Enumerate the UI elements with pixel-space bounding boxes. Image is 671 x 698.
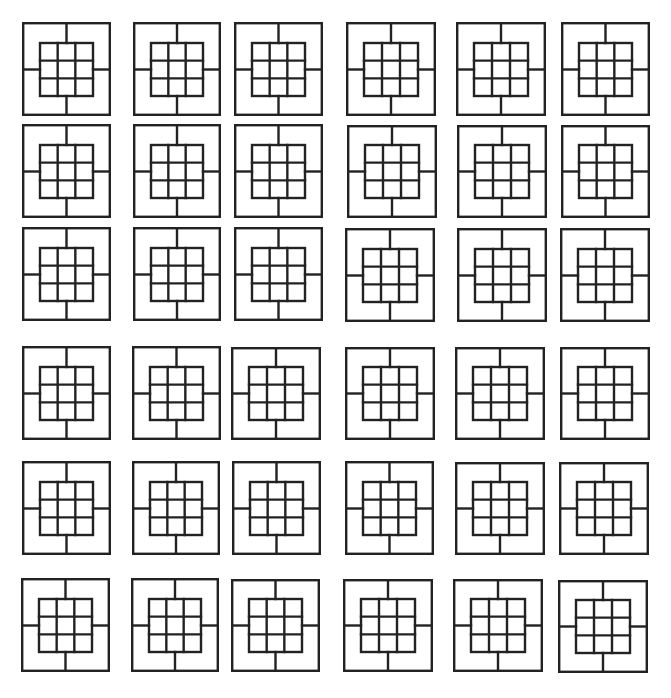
grid-tile-r2-c2 — [133, 124, 221, 218]
framed-grid-icon — [453, 579, 543, 672]
inner-grid — [40, 145, 93, 198]
framed-grid-icon — [131, 578, 219, 672]
framed-grid-icon — [560, 228, 650, 322]
framed-grid-icon — [231, 347, 321, 440]
framed-grid-icon — [560, 347, 650, 440]
inner-grid — [252, 43, 305, 96]
framed-grid-icon — [234, 22, 323, 116]
grid-tile-r4-c3 — [231, 347, 321, 440]
inner-grid — [363, 367, 417, 420]
framed-grid-icon — [559, 462, 649, 555]
grid-tile-r3-c4 — [345, 228, 435, 322]
grid-tile-r4-c4 — [345, 347, 435, 440]
grid-tile-r3-c2 — [133, 227, 221, 321]
inner-grid — [252, 145, 305, 198]
inner-grid — [40, 367, 93, 420]
inner-grid — [364, 43, 418, 96]
inner-grid — [579, 145, 632, 198]
framed-grid-icon — [21, 578, 110, 672]
framed-grid-icon — [455, 347, 545, 440]
grid-tile-r3-c3 — [234, 227, 323, 321]
grid-tile-r1-c3 — [234, 22, 323, 116]
inner-grid — [578, 249, 632, 302]
inner-grid — [576, 600, 630, 653]
inner-grid — [150, 367, 203, 420]
inner-grid — [475, 145, 529, 198]
inner-grid — [250, 482, 303, 535]
grid-tile-r6-c2 — [131, 578, 219, 672]
framed-grid-icon — [22, 22, 111, 116]
grid-tile-r1-c4 — [346, 22, 436, 116]
grid-tile-r6-c3 — [231, 579, 320, 672]
framed-grid-icon — [231, 579, 320, 672]
framed-grid-icon — [22, 461, 111, 555]
grid-tile-r3-c1 — [22, 227, 111, 321]
grid-tile-r6-c1 — [21, 578, 110, 672]
grid-tile-r5-c5 — [455, 462, 545, 555]
inner-grid — [363, 249, 417, 302]
inner-grid — [473, 367, 527, 420]
grid-tile-r1-c5 — [456, 22, 546, 116]
inner-grid — [151, 43, 203, 96]
grid-tile-r5-c4 — [345, 461, 434, 555]
framed-grid-icon — [132, 461, 220, 555]
inner-grid — [363, 482, 416, 535]
grid-tile-r4-c2 — [132, 346, 221, 440]
grid-tile-r6-c4 — [343, 579, 433, 672]
grid-tile-r2-c3 — [234, 124, 323, 218]
framed-grid-icon — [558, 580, 648, 673]
grid-tile-r4-c6 — [560, 347, 650, 440]
grid-tile-r3-c5 — [457, 228, 547, 322]
grid-tile-r5-c1 — [22, 461, 111, 555]
grid-tile-r2-c6 — [561, 125, 650, 218]
grid-tile-r2-c1 — [22, 124, 111, 218]
grid-tile-r1-c6 — [561, 22, 650, 116]
framed-grid-icon — [234, 227, 323, 321]
inner-grid — [473, 482, 527, 535]
inner-grid — [471, 599, 525, 652]
grid-tile-r6-c5 — [453, 579, 543, 672]
inner-grid — [40, 248, 93, 301]
grid-tile-r1-c2 — [133, 22, 221, 116]
framed-grid-icon — [345, 461, 434, 555]
grid-tile-r3-c6 — [560, 228, 650, 322]
inner-grid — [578, 367, 632, 420]
framed-grid-icon — [132, 346, 221, 440]
grid-tile-r4-c5 — [455, 347, 545, 440]
framed-grid-icon — [345, 228, 435, 322]
grid-tile-r5-c2 — [132, 461, 220, 555]
framed-grid-icon — [455, 462, 545, 555]
grid-tile-r1-c1 — [22, 22, 111, 116]
framed-grid-icon — [345, 347, 435, 440]
framed-grid-icon — [22, 124, 111, 218]
grid-tile-r4-c1 — [22, 346, 111, 440]
framed-grid-icon — [133, 124, 221, 218]
framed-grid-icon — [232, 461, 321, 555]
framed-grid-icon — [22, 346, 111, 440]
framed-grid-icon — [457, 228, 547, 322]
inner-grid — [252, 248, 305, 301]
framed-grid-icon — [457, 125, 547, 218]
framed-grid-icon — [346, 22, 436, 116]
inner-grid — [249, 367, 303, 420]
framed-grid-icon — [561, 125, 650, 218]
grid-tile-r5-c6 — [559, 462, 649, 555]
inner-grid — [579, 43, 632, 96]
inner-grid — [151, 248, 203, 301]
framed-grid-icon — [456, 22, 546, 116]
grid-tile-r2-c4 — [347, 125, 437, 218]
framed-grid-icon — [347, 125, 437, 218]
inner-grid — [150, 482, 202, 535]
framed-grid-icon — [22, 227, 111, 321]
inner-grid — [475, 249, 529, 302]
inner-grid — [577, 482, 631, 535]
grid-tile-r6-c6 — [558, 580, 648, 673]
framed-grid-icon — [133, 227, 221, 321]
framed-grid-icon — [234, 124, 323, 218]
grid-tile-r5-c3 — [232, 461, 321, 555]
framed-grid-icon — [133, 22, 221, 116]
inner-grid — [365, 145, 419, 198]
grid-tile-r2-c5 — [457, 125, 547, 218]
inner-grid — [151, 145, 203, 198]
framed-grid-icon — [561, 22, 650, 116]
